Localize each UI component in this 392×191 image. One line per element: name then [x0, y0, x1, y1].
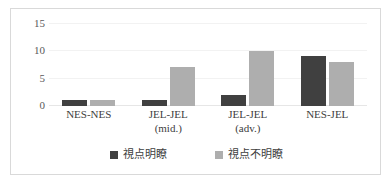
x-category-label-0-line1: NES-NES [66, 108, 111, 120]
legend-label-series-a: 視点明瞭 [123, 149, 167, 160]
legend-swatch-icon-series-a [110, 151, 118, 159]
bar-group-nes-nes [49, 23, 129, 106]
chart-legend: 視点明瞭 視点不明瞭 [11, 149, 382, 160]
bar-series-a-cat-3 [301, 56, 326, 106]
bar-series-b-cat-0 [90, 100, 115, 106]
x-category-label-1: JEL-JEL (mid.) [129, 108, 209, 136]
x-category-label-1-line2: (mid.) [129, 122, 209, 136]
y-axis: 15 10 5 0 [11, 23, 45, 106]
x-category-label-2-line2: (adv.) [208, 122, 288, 136]
legend-item-series-a[interactable]: 視点明瞭 [110, 149, 167, 160]
bar-series-b-cat-3 [329, 62, 354, 106]
x-category-label-1-line1: JEL-JEL [149, 108, 188, 120]
x-axis: NES-NES JEL-JEL (mid.) JEL-JEL (adv.) NE… [49, 108, 367, 136]
chart-container: 15 10 5 0 NES-NES JEL-JEL (mid.) [10, 8, 381, 175]
bar-series-b-cat-2 [249, 51, 274, 106]
bar-group-jel-jel-adv [208, 23, 288, 106]
y-tick-label-0: 0 [17, 100, 45, 111]
x-category-label-2-line1: JEL-JEL [228, 108, 267, 120]
legend-label-series-b: 視点不明瞭 [228, 149, 283, 160]
y-tick-label-10: 10 [17, 45, 45, 56]
bar-group-nes-jel [288, 23, 368, 106]
x-category-label-2: JEL-JEL (adv.) [208, 108, 288, 136]
bars-layer [49, 23, 367, 106]
bar-series-a-cat-1 [142, 100, 167, 106]
legend-swatch-icon-series-b [215, 151, 223, 159]
legend-item-series-b[interactable]: 視点不明瞭 [215, 149, 283, 160]
y-tick-label-5: 5 [17, 73, 45, 84]
y-tick-label-15: 15 [17, 18, 45, 29]
bar-series-b-cat-1 [170, 67, 195, 106]
bar-series-a-cat-2 [221, 95, 246, 106]
bar-group-jel-jel-mid [129, 23, 209, 106]
x-category-label-0: NES-NES [49, 108, 129, 136]
x-category-label-3: NES-JEL [288, 108, 368, 136]
bar-series-a-cat-0 [62, 100, 87, 106]
x-category-label-3-line1: NES-JEL [306, 108, 348, 120]
